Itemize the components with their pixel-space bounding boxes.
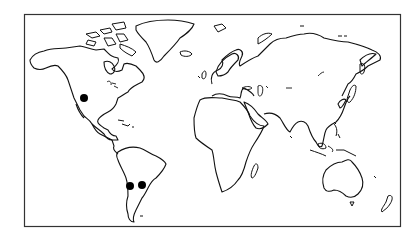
occurrence-marker-north-america[interactable] bbox=[80, 94, 88, 102]
occurrence-marker-south-america-east[interactable] bbox=[138, 181, 146, 189]
world-map bbox=[0, 0, 414, 236]
occurrence-marker-south-america-west[interactable] bbox=[126, 182, 134, 190]
